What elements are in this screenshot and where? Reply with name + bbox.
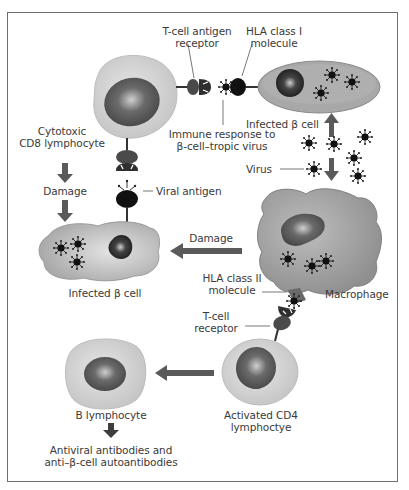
t-cell-antigen-receptor [176, 79, 211, 95]
b-lymphocyte-cell [65, 339, 145, 409]
label-immune-response: Immune response to β-cell–tropic virus [163, 128, 281, 152]
label-damage-cd8: Damage [40, 185, 90, 197]
cd4-t-cell-receptor [271, 306, 296, 341]
label-antibodies: Antiviral antibodies and anti–β-cell aut… [40, 444, 182, 468]
infected-beta-cell-left [39, 222, 159, 281]
label-line: Immune response to [163, 128, 281, 140]
macrophage-cell [258, 189, 382, 294]
label-line: molecule [196, 284, 268, 296]
arrow-virus-to-beta-cell [324, 113, 339, 137]
label-line: Activated CD4 [216, 409, 306, 421]
arrow-macrophage-damage [170, 243, 242, 259]
label-virus: Virus [246, 163, 272, 175]
label-line: T-cell antigen [157, 25, 237, 37]
label-activated-cd4: Activated CD4 lymphoctye [216, 409, 306, 433]
label-hla-class-1: HLA class I molecule [238, 25, 310, 49]
label-line: T-cell [188, 310, 244, 322]
label-line: Cytotoxic [17, 125, 107, 137]
label-cytotoxic-cd8: Cytotoxic CD8 lymphocyte [17, 125, 107, 149]
label-line: HLA class I [238, 25, 310, 37]
label-line: β-cell–tropic virus [163, 140, 281, 152]
arrow-cd4-to-b-lymphocyte [155, 365, 214, 381]
label-line: HLA class II [196, 272, 268, 284]
label-hla-class-2: HLA class II molecule [196, 272, 268, 296]
label-damage-macrophage: Damage [186, 232, 236, 244]
label-b-lymphocyte: B lymphocyte [62, 409, 160, 421]
cd8-tcr-vertical [116, 138, 138, 171]
label-line: Antiviral antibodies and [40, 444, 182, 456]
label-viral-antigen: Viral antigen [156, 185, 221, 197]
label-line: anti–β-cell autoantibodies [40, 456, 182, 468]
label-line: lymphoctye [216, 421, 306, 433]
infected-beta-cell-top [258, 61, 380, 113]
label-line: molecule [238, 37, 310, 49]
label-line: receptor [188, 322, 244, 334]
label-tcell-receptor: T-cell receptor [188, 310, 244, 334]
viral-antigen [116, 180, 138, 222]
hla-class-1-molecule [218, 78, 258, 96]
label-tcell-antigen-receptor: T-cell antigen receptor [157, 25, 237, 49]
label-macrophage: Macrophage [325, 288, 389, 300]
activated-cd4-cell [222, 339, 298, 405]
arrow-b-lymphocyte-to-antibodies [103, 423, 119, 438]
label-line: receptor [157, 37, 237, 49]
label-line: CD8 lymphocyte [17, 137, 107, 149]
virus-cluster [301, 129, 373, 184]
arrow-virus-to-macrophage [324, 158, 339, 181]
label-infected-beta-cell-left: Infected β cell [60, 287, 150, 299]
